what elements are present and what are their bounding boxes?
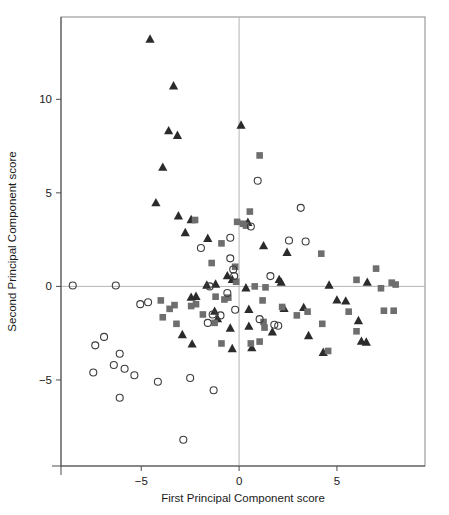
data-point-square <box>234 219 241 226</box>
data-point-square <box>304 308 311 315</box>
x-axis-title: First Principal Component score <box>161 492 325 504</box>
data-point-square <box>218 240 225 247</box>
y-axis-tick-label: −5 <box>39 374 52 386</box>
data-point-square <box>353 328 360 335</box>
data-point-square <box>158 297 165 304</box>
data-point-square <box>373 265 380 272</box>
scatter-plot: −505−50510First Principal Component scor… <box>0 0 449 515</box>
data-point-square <box>173 321 180 328</box>
data-point-square <box>192 217 199 224</box>
x-axis-tick-label: −5 <box>135 475 148 487</box>
data-point-square <box>256 338 263 345</box>
chart-container: −505−50510First Principal Component scor… <box>0 0 449 515</box>
data-point-square <box>262 284 269 291</box>
data-point-square <box>390 307 397 314</box>
data-point-square <box>208 260 215 267</box>
data-point-square <box>319 321 326 328</box>
data-point-square <box>211 320 218 327</box>
data-point-square <box>247 208 254 215</box>
data-point-square <box>243 222 250 229</box>
data-point-square <box>166 306 173 313</box>
data-point-square <box>294 312 301 319</box>
y-axis-tick-label: 5 <box>46 187 52 199</box>
data-point-square <box>345 308 352 315</box>
data-point-square <box>261 324 268 331</box>
data-point-square <box>225 294 232 301</box>
data-point-square <box>325 348 332 355</box>
data-point-square <box>188 303 195 310</box>
data-point-square <box>353 277 360 284</box>
data-point-square <box>159 314 166 321</box>
data-point-square <box>279 304 286 311</box>
data-point-square <box>200 311 207 318</box>
data-point-square <box>318 250 325 257</box>
data-point-square <box>259 297 266 304</box>
y-axis-title: Second Principal Component score <box>6 151 18 331</box>
plot-panel-border <box>61 17 425 466</box>
data-point-square <box>381 307 388 314</box>
data-point-square <box>392 281 399 288</box>
data-point-square <box>378 285 385 292</box>
data-point-square <box>218 340 225 347</box>
data-point-square <box>251 283 258 290</box>
data-point-square <box>212 293 219 300</box>
data-point-square <box>256 152 263 159</box>
y-axis-tick-label: 10 <box>39 93 52 105</box>
x-axis-tick-label: 5 <box>334 475 340 487</box>
data-point-square <box>248 340 255 347</box>
y-axis-tick-label: 0 <box>46 280 52 292</box>
x-axis-tick-label: 0 <box>236 475 242 487</box>
